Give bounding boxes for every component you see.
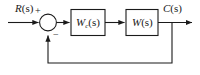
controller-argument: (s) [88,16,100,29]
diagram-canvas: R(s) C(s) Wc(s) W(s) + − [0,0,200,75]
plant-argument: (s) [141,16,153,29]
input-label: R(s) [14,2,34,15]
svg-text:W(s): W(s) [132,16,153,29]
summing-positive-sign: + [35,5,41,16]
block-diagram: R(s) C(s) Wc(s) W(s) + − [0,0,200,75]
positive-sign-label: + [35,5,41,16]
svg-text:C(s): C(s) [163,2,182,15]
controller-block-label: Wc(s) [76,16,100,30]
svg-text:Wc(s): Wc(s) [76,16,100,30]
input-argument: (s) [22,2,34,15]
output-label: C(s) [163,2,182,15]
output-argument: (s) [170,2,182,15]
negative-sign-label: − [53,29,59,40]
summing-negative-sign: − [53,29,59,40]
svg-text:R(s): R(s) [14,2,34,15]
plant-block-label: W(s) [132,16,153,29]
